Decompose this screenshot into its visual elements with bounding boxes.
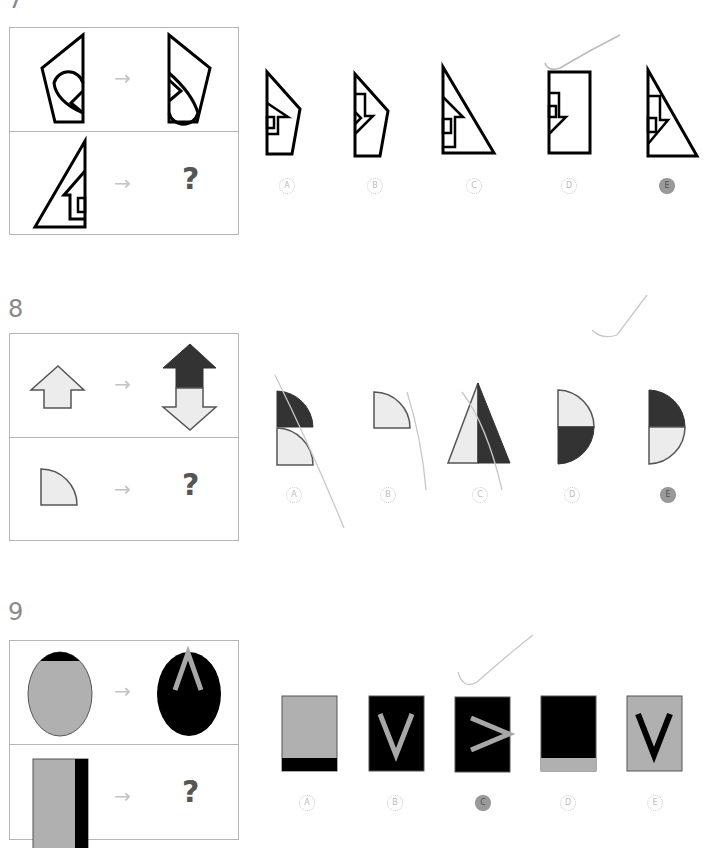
q7-option-b-figure[interactable] bbox=[353, 72, 393, 162]
question-mark: ? bbox=[182, 467, 199, 502]
prompt-row-question: → ? bbox=[10, 437, 238, 541]
question-9-prompt-box: → → ? bbox=[9, 640, 239, 840]
q7-option-e-label[interactable]: E bbox=[659, 178, 675, 194]
q9-option-d-label[interactable]: D bbox=[560, 795, 576, 811]
prompt-row-example: → bbox=[10, 28, 238, 132]
q8-option-a-figure[interactable] bbox=[276, 390, 316, 468]
q7-option-d-figure[interactable] bbox=[547, 70, 593, 158]
question-8-prompt-box: → → ? bbox=[9, 333, 239, 541]
q9-option-a-label[interactable]: A bbox=[299, 795, 315, 811]
transform-arrow: → bbox=[114, 372, 131, 396]
pen-checkmark-mark bbox=[455, 632, 540, 692]
pen-checkmark-mark bbox=[540, 30, 630, 75]
q8-option-c-label[interactable]: C bbox=[472, 487, 488, 503]
mirrored-pentagon-figure bbox=[167, 33, 217, 125]
prompt-row-example: → bbox=[10, 334, 238, 438]
question-number: 7 bbox=[8, 0, 23, 14]
question-mark: ? bbox=[182, 774, 199, 809]
transform-arrow: → bbox=[114, 477, 131, 501]
q7-option-c-figure[interactable] bbox=[441, 65, 497, 157]
q7-option-a-figure[interactable] bbox=[265, 70, 305, 160]
transform-arrow: → bbox=[114, 66, 131, 90]
q9-option-c-figure[interactable] bbox=[454, 696, 511, 774]
question-mark: ? bbox=[182, 161, 199, 196]
q9-option-c-label[interactable]: C bbox=[475, 795, 491, 811]
q7-option-b-label[interactable]: B bbox=[367, 178, 383, 194]
prompt-row-question: → ? bbox=[10, 131, 238, 235]
q8-option-b-figure[interactable] bbox=[373, 391, 413, 431]
transform-arrow: → bbox=[114, 171, 131, 195]
q7-option-a-label[interactable]: A bbox=[279, 178, 295, 194]
q8-option-c-figure[interactable] bbox=[446, 381, 512, 465]
q8-option-e-label[interactable]: E bbox=[660, 487, 676, 503]
pentagon-half-figure bbox=[38, 33, 88, 125]
q7-option-e-figure[interactable] bbox=[646, 68, 700, 160]
q9-option-b-label[interactable]: B bbox=[387, 795, 403, 811]
q9-option-a-figure[interactable] bbox=[281, 695, 338, 773]
transform-arrow: → bbox=[114, 784, 131, 808]
prompt-row-question: → ? bbox=[10, 744, 238, 841]
double-arrow-figure bbox=[161, 342, 219, 432]
q7-option-d-label[interactable]: D bbox=[561, 178, 577, 194]
black-oval-lambda-figure bbox=[155, 650, 223, 738]
q8-option-e-figure[interactable] bbox=[648, 389, 688, 467]
q8-option-d-figure[interactable] bbox=[557, 389, 597, 467]
up-arrow-light-figure bbox=[29, 364, 87, 410]
q9-option-d-figure[interactable] bbox=[540, 695, 597, 773]
prompt-row-example: → bbox=[10, 641, 238, 745]
q9-option-e-label[interactable]: E bbox=[647, 795, 663, 811]
triangle-arrow-figure bbox=[33, 139, 93, 231]
q8-option-d-label[interactable]: D bbox=[564, 487, 580, 503]
gray-oval-black-cap-figure bbox=[26, 650, 94, 738]
quarter-circle-figure bbox=[39, 467, 79, 507]
q7-option-c-label[interactable]: C bbox=[466, 178, 482, 194]
q9-option-b-figure[interactable] bbox=[368, 695, 425, 773]
question-number: 8 bbox=[8, 295, 23, 323]
question-number: 9 bbox=[8, 598, 23, 626]
gray-rect-black-side-figure bbox=[32, 758, 90, 848]
transform-arrow: → bbox=[114, 679, 131, 703]
question-7-prompt-box: → → ? bbox=[9, 27, 239, 235]
q9-option-e-figure[interactable] bbox=[626, 695, 683, 773]
q8-option-a-label[interactable]: A bbox=[286, 487, 302, 503]
q8-option-b-label[interactable]: B bbox=[380, 487, 396, 503]
